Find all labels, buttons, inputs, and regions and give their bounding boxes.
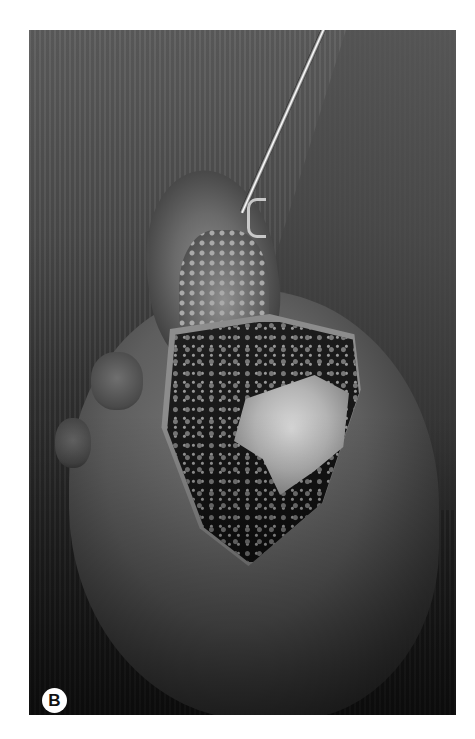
clinical-photograph: B xyxy=(29,30,456,715)
hook-tip-icon xyxy=(247,198,266,238)
toe xyxy=(91,352,143,410)
shadow xyxy=(29,415,456,715)
panel-label: B xyxy=(42,688,67,713)
